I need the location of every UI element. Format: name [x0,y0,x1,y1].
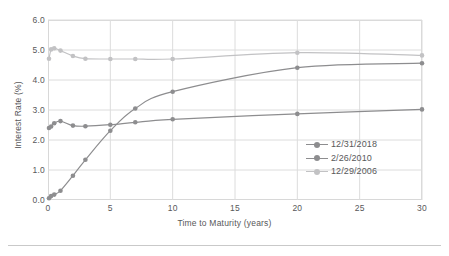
legend-item-0[interactable]: 12/31/2018 [306,138,377,152]
x-tick-1: 5 [90,203,130,213]
footer-divider [8,245,441,246]
x-tick-5: 25 [340,203,380,213]
chart-legend: 12/31/2018 2/26/2010 12/29/2006 [306,138,377,179]
yield-curve-figure: 0.01.02.03.04.05.06.0 051015202530 Time … [0,0,449,256]
legend-marker-icon-0 [306,140,328,149]
legend-label-2: 12/29/2006 [331,165,377,179]
legend-item-2[interactable]: 12/29/2006 [306,165,377,179]
y-tick-6: 6.0 [15,15,45,25]
legend-marker-icon-2 [306,167,328,176]
legend-label-1: 2/26/2010 [331,152,372,166]
legend-marker-icon-1 [306,154,328,163]
x-tick-3: 15 [215,203,255,213]
y-axis-title: Interest Rate (%) [13,45,23,185]
legend-item-1[interactable]: 2/26/2010 [306,152,377,166]
x-tick-0: 0 [28,203,68,213]
x-axis-title: Time to Maturity (years) [0,218,449,228]
x-tick-6: 30 [402,203,442,213]
legend-label-0: 12/31/2018 [331,138,377,152]
x-tick-4: 20 [277,203,317,213]
x-tick-2: 10 [153,203,193,213]
